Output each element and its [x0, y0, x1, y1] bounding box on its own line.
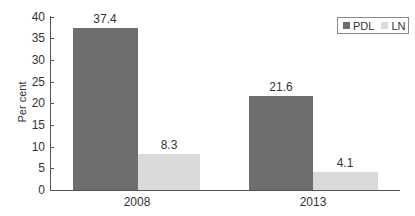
y-tick — [50, 82, 54, 83]
legend-swatch-ln — [381, 22, 388, 29]
value-label: 21.6 — [251, 81, 311, 93]
legend: PDL LN — [337, 17, 409, 34]
y-tick — [50, 60, 54, 61]
x-category-label: 2008 — [97, 195, 177, 209]
y-tick-label: 30 — [5, 54, 45, 66]
legend-label-ln: LN — [391, 20, 405, 32]
bar-ln-2008 — [138, 154, 200, 190]
y-tick — [50, 17, 54, 18]
y-tick-label: 10 — [5, 141, 45, 153]
y-axis-title: Per cent — [16, 72, 28, 132]
y-tick — [50, 168, 54, 169]
value-label: 37.4 — [75, 13, 135, 25]
legend-swatch-pdl — [343, 22, 350, 29]
y-tick — [50, 190, 54, 191]
value-label: 4.1 — [315, 157, 375, 169]
y-tick — [50, 103, 54, 104]
legend-label-pdl: PDL — [353, 20, 374, 32]
bar-pdl-2013 — [249, 96, 313, 190]
y-tick-label: 5 — [5, 162, 45, 174]
x-category-label: 2013 — [273, 195, 353, 209]
value-label: 8.3 — [139, 139, 199, 151]
bar-pdl-2008 — [73, 28, 138, 190]
bar-ln-2013 — [313, 172, 378, 190]
y-tick-label: 35 — [5, 32, 45, 44]
y-tick — [50, 147, 54, 148]
y-tick — [50, 38, 54, 39]
x-axis — [50, 190, 400, 191]
y-tick — [50, 125, 54, 126]
y-tick-label: 40 — [5, 11, 45, 23]
y-tick-label: 0 — [5, 184, 45, 196]
